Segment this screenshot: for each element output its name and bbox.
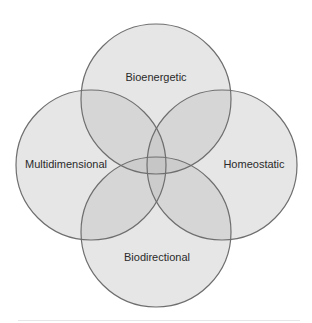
circle-bottom	[81, 157, 231, 307]
bottom-divider	[18, 320, 300, 321]
label-multidimensional: Multidimensional	[25, 158, 107, 170]
label-biodirectional: Biodirectional	[124, 251, 190, 263]
label-homeostatic: Homeostatic	[223, 158, 284, 170]
label-bioenergetic: Bioenergetic	[125, 71, 186, 83]
